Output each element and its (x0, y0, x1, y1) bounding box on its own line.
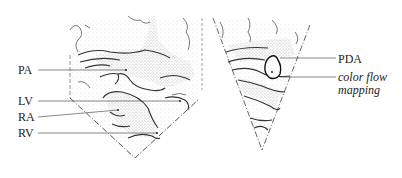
right-sector-bg (213, 18, 310, 150)
label-color-flow: color flow (338, 71, 387, 83)
pda-flow-jet (265, 56, 281, 79)
left-sector-bg (70, 20, 200, 160)
label-lv: LV (18, 95, 33, 107)
label-pa: PA (18, 64, 32, 76)
label-ra: RA (18, 111, 35, 123)
label-mapping: mapping (338, 84, 380, 96)
left-sector (38, 15, 200, 160)
label-rv: RV (18, 127, 34, 139)
right-sector (202, 18, 336, 150)
label-pda: PDA (338, 53, 362, 65)
